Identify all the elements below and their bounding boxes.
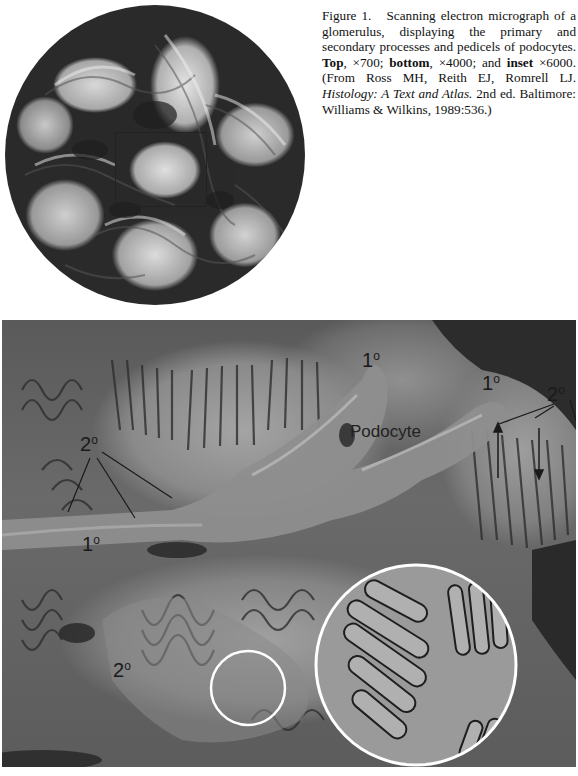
label-secondary-process-left: 2o: [80, 430, 98, 454]
label-podocyte: Podocyte: [350, 422, 421, 442]
label-secondary-process-bottom: 2o: [113, 656, 131, 680]
label-degree: o: [124, 659, 131, 673]
figure-label: Figure 1.: [322, 8, 371, 23]
label-text: 1: [82, 533, 93, 555]
caption-inset-label: inset: [507, 55, 533, 70]
label-text: 1: [482, 372, 493, 394]
caption-bottom-label: bottom: [389, 55, 429, 70]
label-primary-process-left: 1o: [82, 530, 100, 554]
label-text: 1: [362, 349, 373, 371]
caption-top-label: Top: [322, 55, 344, 70]
label-text: 2: [113, 659, 124, 681]
label-degree: o: [373, 349, 380, 363]
figure-caption: Figure 1. Scanning electron micrograph o…: [322, 8, 576, 117]
label-text: 2: [547, 383, 558, 405]
label-degree: o: [91, 433, 98, 447]
top-micrograph-glomerulus: [5, 5, 305, 305]
label-degree: o: [93, 533, 100, 547]
label-degree: o: [558, 383, 565, 397]
label-text: 2: [80, 433, 91, 455]
caption-top-mag: , ×700;: [344, 55, 390, 70]
label-secondary-process-right: 2o: [547, 380, 565, 404]
caption-bottom-mag: , ×4000; and: [430, 55, 507, 70]
caption-book-title: Histology: A Text and Atlas.: [322, 86, 472, 101]
magnified-region-box: [115, 132, 207, 207]
label-degree: o: [493, 372, 500, 386]
label-primary-process-1: 1o: [362, 346, 380, 370]
label-primary-process-2: 1o: [482, 369, 500, 393]
